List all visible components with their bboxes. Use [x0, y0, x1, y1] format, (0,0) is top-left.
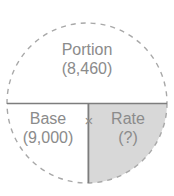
- rate-sector-shading: [87, 103, 167, 183]
- portion-base-rate-diagram: Portion (8,460) Base (9,000) × Rate (?): [0, 0, 174, 196]
- diagram-canvas: [0, 0, 174, 196]
